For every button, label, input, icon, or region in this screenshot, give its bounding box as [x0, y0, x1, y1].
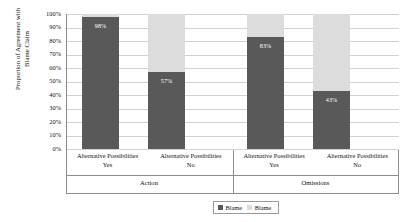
y-axis-tick-labels: 100%90%80%70%60%50%40%30%20%10%0%: [28, 0, 64, 222]
legend[interactable]: BlameBlame: [213, 201, 279, 214]
category-label-line1: Alternative Possibilities: [243, 152, 304, 159]
category-label: Alternative PossibilitiesNo: [316, 152, 399, 169]
category-label-line2: No: [316, 161, 399, 170]
y-axis-tick-70: 70%: [49, 51, 61, 57]
bar-group[interactable]: 83%: [247, 14, 284, 149]
legend-swatch-light: [247, 205, 252, 210]
y-axis-tick-0: 0%: [52, 146, 61, 152]
bar-segment-dark[interactable]: [247, 37, 284, 149]
axis-separator-vertical: [398, 150, 399, 194]
legend-item[interactable]: Blame: [218, 204, 242, 211]
y-axis-tick-40: 40%: [49, 92, 61, 98]
bar-value-label: 98%: [82, 22, 119, 29]
legend-item[interactable]: Blame: [247, 204, 271, 211]
legend-label: Blame: [226, 204, 243, 211]
plot-area: 98%57%83%43%: [67, 14, 399, 149]
category-label-line1: Alternative Possibilities: [77, 152, 138, 159]
group-label: Action: [66, 179, 232, 188]
group-label: Omissions: [233, 179, 399, 188]
category-label-line2: Yes: [233, 161, 316, 170]
bar-segment-light[interactable]: [313, 14, 350, 91]
axis-separator-horizontal: [66, 175, 399, 176]
category-label: Alternative PossibilitiesNo: [149, 152, 232, 169]
bar-value-label: 43%: [313, 96, 350, 103]
category-label-line1: Alternative Possibilities: [327, 152, 388, 159]
bar-segment-dark[interactable]: [82, 17, 119, 149]
category-label: Alternative PossibilitiesYes: [66, 152, 149, 169]
category-axis: Alternative PossibilitiesYesAlternative …: [66, 150, 399, 194]
y-axis-tick-80: 80%: [49, 38, 61, 44]
bar-group[interactable]: 43%: [313, 14, 350, 149]
blame-claim-bar-chart: Proportion of Agreement with Blame Claim…: [0, 0, 414, 222]
bar-value-label: 57%: [148, 77, 185, 84]
category-label-line2: No: [149, 161, 232, 170]
bar-value-label: 83%: [247, 42, 284, 49]
bar-segment-light[interactable]: [148, 14, 185, 72]
y-axis-title-line1: Proportion of Agreement with: [14, 8, 21, 90]
category-label: Alternative PossibilitiesYes: [233, 152, 316, 169]
y-axis-tick-60: 60%: [49, 65, 61, 71]
bar-segment-light[interactable]: [247, 14, 284, 37]
bar-group[interactable]: 57%: [148, 14, 185, 149]
y-axis-tick-90: 90%: [49, 24, 61, 30]
bar-group[interactable]: 98%: [82, 14, 119, 149]
axis-separator-bottom: [66, 193, 399, 194]
category-label-line1: Alternative Possibilities: [160, 152, 221, 159]
legend-swatch-dark: [218, 205, 223, 210]
y-axis-tick-10: 10%: [49, 132, 61, 138]
category-label-line2: Yes: [66, 161, 149, 170]
y-axis-tick-50: 50%: [49, 78, 61, 84]
y-axis-tick-100: 100%: [46, 11, 61, 17]
legend-label: Blame: [255, 204, 272, 211]
axis-separator-vertical: [233, 150, 234, 194]
y-axis-tick-30: 30%: [49, 105, 61, 111]
axis-separator-vertical: [66, 150, 67, 194]
y-axis-tick-20: 20%: [49, 119, 61, 125]
